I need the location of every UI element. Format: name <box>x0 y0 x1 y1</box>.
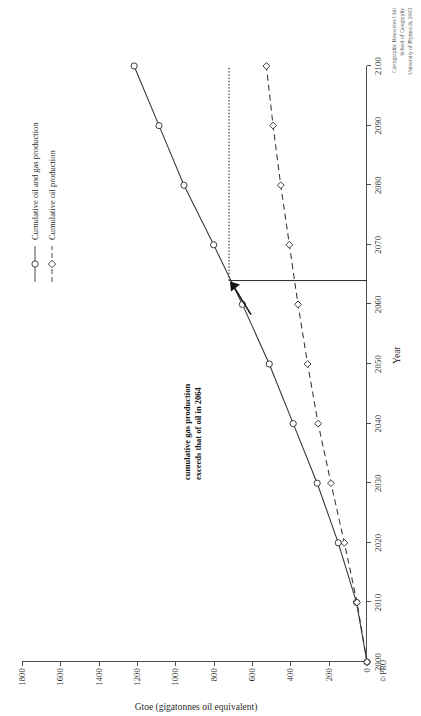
legend-key-solid-circle <box>28 244 42 284</box>
y-axis-title-text: Gtoe (gigatonnes oil equivalent) <box>135 702 258 712</box>
credit-line-1: Cartographic Resources Unit <box>390 8 398 168</box>
annotation-line-1: cumulative gas production <box>182 384 193 480</box>
y-tick-label: 400 <box>285 668 295 708</box>
chart-figure: 2000201020202030204020502060207020802090… <box>0 0 421 716</box>
x-tick <box>367 244 371 245</box>
x-tick <box>367 65 371 66</box>
series-line-1 <box>134 66 367 662</box>
data-point-marker <box>131 63 137 69</box>
credit-line-3: University of Plymouth, 2003 <box>406 8 414 168</box>
x-tick <box>367 601 371 602</box>
data-point-marker <box>290 421 296 427</box>
x-tick <box>367 423 371 424</box>
legend-key-dashed-diamond <box>45 244 59 284</box>
y-tick <box>329 662 330 666</box>
chart-legend: Cumulative oil and gas production Cumula… <box>26 84 60 284</box>
data-point-marker <box>341 539 348 546</box>
y-tick-label: 0 <box>362 668 372 708</box>
x-tick-label: 2090 <box>373 117 383 135</box>
credit-line-2: School of Geography <box>398 8 406 168</box>
y-tick-label: 1800 <box>17 668 27 708</box>
x-tick <box>367 125 371 126</box>
data-point-marker <box>328 480 335 487</box>
x-tick-label: 2100 <box>373 57 383 75</box>
y-tick-label: 200 <box>324 668 334 708</box>
y-tick <box>22 662 23 666</box>
data-point-marker <box>314 480 320 486</box>
x-tick-label: 2060 <box>373 296 383 314</box>
x-tick <box>367 363 371 364</box>
legend-item-oil-and-gas: Cumulative oil and gas production <box>26 84 43 284</box>
data-point-marker <box>263 63 270 70</box>
data-point-marker <box>304 361 311 368</box>
data-point-marker <box>211 242 217 248</box>
x-tick-label: 2030 <box>373 474 383 492</box>
y-tick <box>252 662 253 666</box>
x-axis-title: Year <box>392 346 402 364</box>
data-point-marker <box>266 361 272 367</box>
x-tick-label: 2040 <box>373 415 383 433</box>
chart-annotation: cumulative gas production exceeds that o… <box>182 384 204 480</box>
y-tick <box>175 662 176 666</box>
rotated-figure-container: 2000201020202030204020502060207020802090… <box>0 0 421 716</box>
x-tick-label: 2080 <box>373 176 383 194</box>
data-point-marker <box>270 122 277 129</box>
y-tick-label: 1600 <box>55 668 65 708</box>
x-tick-label: 2020 <box>373 534 383 552</box>
y-tick <box>290 662 291 666</box>
x-tick <box>367 184 371 185</box>
plot-area: 2000201020202030204020502060207020802090… <box>22 66 367 662</box>
y-tick <box>60 662 61 666</box>
data-point-marker <box>286 241 293 248</box>
y-tick <box>214 662 215 666</box>
data-point-marker <box>156 122 162 128</box>
x-tick <box>367 303 371 304</box>
y-tick <box>99 662 100 666</box>
x-tick <box>367 482 371 483</box>
y-tick-label: 1400 <box>94 668 104 708</box>
credit-block: Cartographic Resources Unit School of Ge… <box>390 8 414 168</box>
copyright-mark: © PRO <box>379 660 388 682</box>
x-tick-label: 2070 <box>373 236 383 254</box>
series-line-2 <box>266 66 367 662</box>
y-axis-title: Gtoe (gigatonnes oil equivalent) <box>135 702 258 712</box>
legend-item-oil: Cumulative oil production <box>43 84 60 284</box>
data-point-marker <box>295 301 302 308</box>
annotation-line-2: exceeds that of oil in 2064 <box>193 384 204 480</box>
x-tick <box>367 542 371 543</box>
chart-data-layer <box>22 66 367 662</box>
x-tick-label: 2010 <box>373 594 383 612</box>
y-tick <box>137 662 138 666</box>
data-point-marker <box>315 420 322 427</box>
data-point-marker <box>277 182 284 189</box>
data-point-marker <box>181 182 187 188</box>
legend-label-oil-and-gas: Cumulative oil and gas production <box>30 122 40 244</box>
legend-label-oil: Cumulative oil production <box>47 150 57 244</box>
x-tick-label: 2050 <box>373 355 383 373</box>
